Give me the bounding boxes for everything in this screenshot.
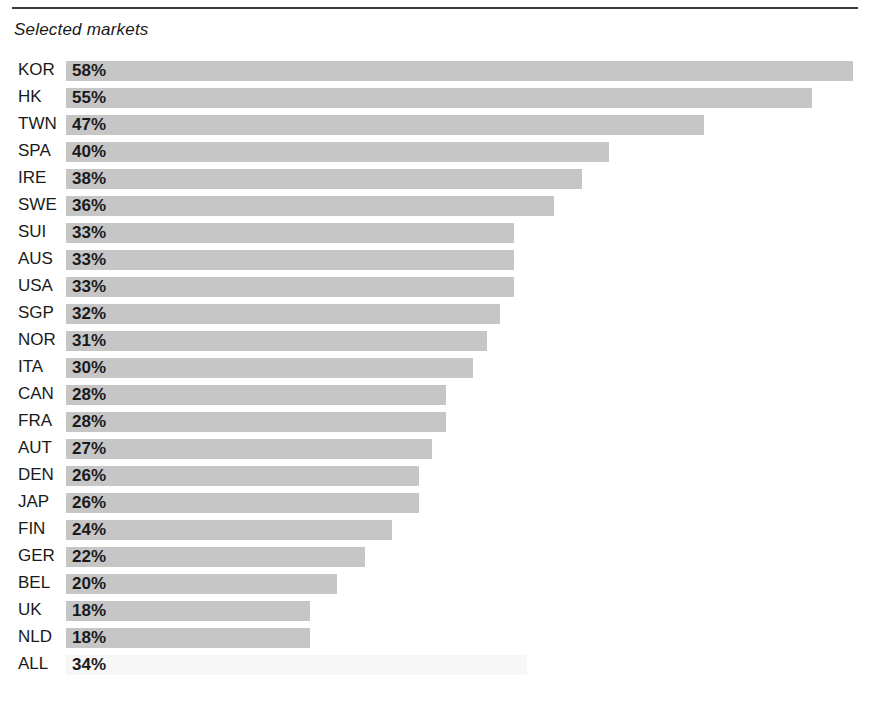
bar-track: 36% <box>66 196 866 216</box>
bar-row: SUI33% <box>0 220 872 247</box>
bar-value-label: 33% <box>72 277 106 297</box>
bar-row: IRE38% <box>0 166 872 193</box>
bar-row: TWN47% <box>0 112 872 139</box>
bar-track: 26% <box>66 493 866 513</box>
bar-track: 20% <box>66 574 866 594</box>
bar-value-label: 38% <box>72 169 106 189</box>
bar-value-label: 58% <box>72 61 106 81</box>
bar-track: 55% <box>66 88 866 108</box>
bar-row: AUT27% <box>0 436 872 463</box>
bar-row: ITA30% <box>0 355 872 382</box>
bar-value-label: 47% <box>72 115 106 135</box>
category-label: UK <box>18 600 66 620</box>
bar-row: HK55% <box>0 85 872 112</box>
bar-track: 18% <box>66 601 866 621</box>
bar-row: NOR31% <box>0 328 872 355</box>
bar-row: CAN28% <box>0 382 872 409</box>
bar-track: 28% <box>66 385 866 405</box>
bar-value-label: 36% <box>72 196 106 216</box>
bar-value-label: 30% <box>72 358 106 378</box>
bar-row: AUS33% <box>0 247 872 274</box>
bar-track: 33% <box>66 277 866 297</box>
category-label: AUS <box>18 249 66 269</box>
bar <box>66 142 609 162</box>
bar-track: 24% <box>66 520 866 540</box>
bar-row: SWE36% <box>0 193 872 220</box>
category-label: ALL <box>18 654 66 674</box>
bar-value-label: 28% <box>72 412 106 432</box>
bar-value-label: 18% <box>72 601 106 621</box>
bar-row: ALL34% <box>0 652 872 679</box>
bar <box>66 493 419 513</box>
bar <box>66 88 812 108</box>
category-label: IRE <box>18 168 66 188</box>
bar-value-label: 33% <box>72 250 106 270</box>
bar <box>66 169 582 189</box>
bar-value-label: 31% <box>72 331 106 351</box>
bar-value-label: 26% <box>72 493 106 513</box>
bar-value-label: 34% <box>72 655 106 675</box>
bar-value-label: 55% <box>72 88 106 108</box>
category-label: KOR <box>18 60 66 80</box>
bar-track: 58% <box>66 61 866 81</box>
bar-track: 33% <box>66 223 866 243</box>
bar-row: FRA28% <box>0 409 872 436</box>
bar-row: SGP32% <box>0 301 872 328</box>
bar-row: DEN26% <box>0 463 872 490</box>
category-label: FRA <box>18 411 66 431</box>
category-label: DEN <box>18 465 66 485</box>
bar <box>66 520 392 540</box>
category-label: SUI <box>18 222 66 242</box>
bar <box>66 385 446 405</box>
bar-track: 30% <box>66 358 866 378</box>
bar-value-label: 32% <box>72 304 106 324</box>
bar-row: UK18% <box>0 598 872 625</box>
bar-row: SPA40% <box>0 139 872 166</box>
bar <box>66 250 514 270</box>
bar-value-label: 20% <box>72 574 106 594</box>
bar-track: 27% <box>66 439 866 459</box>
top-divider-rule <box>12 7 858 9</box>
bar-row: NLD18% <box>0 625 872 652</box>
bar-track: 31% <box>66 331 866 351</box>
bar <box>66 223 514 243</box>
category-label: NLD <box>18 627 66 647</box>
bar-track: 34% <box>66 655 866 675</box>
bar-value-label: 24% <box>72 520 106 540</box>
bar <box>66 439 432 459</box>
bar-row: BEL20% <box>0 571 872 598</box>
bar-track: 28% <box>66 412 866 432</box>
bar-chart-plot-area: KOR58%HK55%TWN47%SPA40%IRE38%SWE36%SUI33… <box>0 58 872 679</box>
bar-value-label: 27% <box>72 439 106 459</box>
bar-row: FIN24% <box>0 517 872 544</box>
bar-row: USA33% <box>0 274 872 301</box>
bar <box>66 655 527 675</box>
bar <box>66 358 473 378</box>
chart-figure: Selected markets KOR58%HK55%TWN47%SPA40%… <box>0 0 872 712</box>
bar-row: KOR58% <box>0 58 872 85</box>
category-label: CAN <box>18 384 66 404</box>
category-label: BEL <box>18 573 66 593</box>
bar-row: GER22% <box>0 544 872 571</box>
chart-title: Selected markets <box>14 20 149 40</box>
bar-track: 18% <box>66 628 866 648</box>
category-label: JAP <box>18 492 66 512</box>
bar <box>66 331 487 351</box>
category-label: SWE <box>18 195 66 215</box>
bar <box>66 277 514 297</box>
bar <box>66 574 337 594</box>
category-label: NOR <box>18 330 66 350</box>
bar-track: 33% <box>66 250 866 270</box>
category-label: USA <box>18 276 66 296</box>
bar-track: 47% <box>66 115 866 135</box>
category-label: SPA <box>18 141 66 161</box>
category-label: GER <box>18 546 66 566</box>
bar-value-label: 33% <box>72 223 106 243</box>
bar-value-label: 26% <box>72 466 106 486</box>
bar-track: 32% <box>66 304 866 324</box>
bar-value-label: 22% <box>72 547 106 567</box>
category-label: TWN <box>18 114 66 134</box>
category-label: ITA <box>18 357 66 377</box>
bar <box>66 196 554 216</box>
category-label: AUT <box>18 438 66 458</box>
